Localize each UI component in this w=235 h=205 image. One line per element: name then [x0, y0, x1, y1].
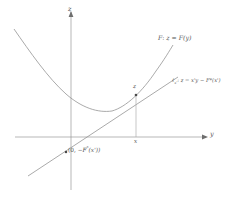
- vertical-axis-label: z: [68, 6, 71, 13]
- horizontal-axis-label: y: [210, 131, 214, 138]
- curve-label: F: z = F(y): [158, 35, 191, 41]
- tangent-label-equation: z = x'y − F*(x'): [181, 77, 221, 83]
- intercept-point-marker: [65, 151, 68, 154]
- curve-label-equation: z = F(y): [166, 34, 191, 41]
- intercept-label-arg: (x')): [89, 147, 101, 153]
- legendre-transform-figure: z y F: z = F(y) ℓx': z = x'y − F*(x') (0…: [0, 0, 235, 205]
- plot-canvas: [0, 0, 235, 205]
- horizontal-axis-arrow: [202, 135, 208, 140]
- tangent-label: ℓx': z = x'y − F*(x'): [172, 78, 221, 83]
- curve-label-colon: :: [162, 34, 164, 41]
- intercept-label: (0, −F*(x')): [68, 148, 100, 154]
- tangency-point-marker: [135, 94, 138, 97]
- x-tick-label: x: [134, 139, 137, 145]
- convex-curve-F: [14, 29, 173, 111]
- intercept-label-open: (0, −: [68, 147, 83, 153]
- tangent-line: [28, 77, 178, 176]
- tangency-point-label: z: [133, 84, 136, 90]
- tangent-label-colon: :: [177, 77, 179, 83]
